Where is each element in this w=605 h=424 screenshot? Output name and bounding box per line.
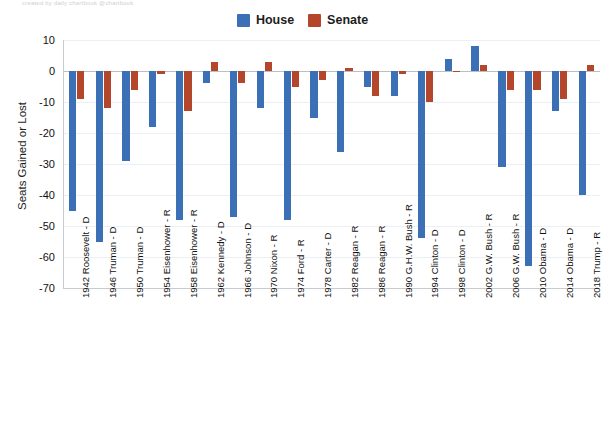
plot-area: Seats Gained or Lost 100-10-20-30-40-50-… (0, 0, 605, 424)
bar-house[interactable] (69, 71, 76, 211)
bar-senate[interactable] (157, 71, 164, 74)
x-tick-label: 2010 Obama - D (537, 228, 548, 298)
x-tick-label: 1966 Johnson - D (242, 223, 253, 298)
y-tick-label: -20 (19, 127, 55, 139)
bar-senate[interactable] (319, 71, 326, 80)
y-tick-label: -70 (19, 282, 55, 294)
bar-house[interactable] (284, 71, 291, 220)
grid-line (63, 164, 600, 165)
x-tick-label: 2006 G.W. Bush - R (510, 214, 521, 298)
bar-house[interactable] (471, 46, 478, 71)
bar-house[interactable] (498, 71, 505, 167)
bar-senate[interactable] (131, 71, 138, 90)
bar-house[interactable] (203, 71, 210, 83)
bar-senate[interactable] (560, 71, 567, 99)
bar-house[interactable] (176, 71, 183, 220)
bar-senate[interactable] (587, 65, 594, 71)
x-tick-label: 1974 Ford - R (295, 239, 306, 298)
x-tick-label: 1990 G.H.W. Bush - R (403, 204, 414, 298)
bar-house[interactable] (96, 71, 103, 242)
grid-line (63, 102, 600, 103)
y-tick-label: -30 (19, 158, 55, 170)
y-tick-label: 0 (19, 65, 55, 77)
y-axis-line (63, 40, 64, 288)
bar-house[interactable] (230, 71, 237, 217)
x-tick-label: 1958 Eisenhower - R (188, 209, 199, 298)
x-tick-label: 1950 Truman - D (134, 227, 145, 298)
y-tick-label: 10 (19, 34, 55, 46)
bar-house[interactable] (525, 71, 532, 266)
x-tick-label: 1978 Carter - D (322, 233, 333, 298)
x-tick-label: 1986 Reagan - R (376, 226, 387, 298)
bar-senate[interactable] (104, 71, 111, 108)
bar-house[interactable] (418, 71, 425, 238)
bar-senate[interactable] (426, 71, 433, 102)
x-tick-label: 2018 Trump - R (591, 232, 602, 298)
bar-senate[interactable] (292, 71, 299, 87)
y-tick-label: -60 (19, 251, 55, 263)
bar-house[interactable] (391, 71, 398, 96)
bar-senate[interactable] (238, 71, 245, 83)
bar-house[interactable] (310, 71, 317, 118)
y-tick-label: -40 (19, 189, 55, 201)
bar-senate[interactable] (533, 71, 540, 90)
bar-senate[interactable] (507, 71, 514, 90)
y-tick-label: -50 (19, 220, 55, 232)
bar-senate[interactable] (345, 68, 352, 71)
bar-senate[interactable] (265, 62, 272, 71)
x-tick-label: 1954 Eisenhower - R (161, 209, 172, 298)
bar-house[interactable] (149, 71, 156, 127)
bar-house[interactable] (122, 71, 129, 161)
zero-baseline (63, 71, 600, 72)
x-tick-label: 1970 Nixon - R (268, 235, 279, 298)
grid-line (63, 195, 600, 196)
x-tick-label: 1998 Clinton - D (456, 229, 467, 298)
bar-house[interactable] (364, 71, 371, 87)
midterm-seat-change-chart: created by daily chartbook @chartbook Ho… (0, 0, 605, 424)
x-tick-label: 1942 Roosevelt - D (80, 217, 91, 298)
bar-senate[interactable] (372, 71, 379, 96)
bar-senate[interactable] (399, 71, 406, 74)
x-tick-label: 1982 Reagan - R (349, 226, 360, 298)
bar-house[interactable] (337, 71, 344, 152)
grid-line (63, 40, 600, 41)
x-tick-label: 1946 Truman - D (107, 227, 118, 298)
bar-senate[interactable] (211, 62, 218, 71)
bar-senate[interactable] (184, 71, 191, 111)
bar-senate[interactable] (480, 65, 487, 71)
x-tick-label: 2002 G.W. Bush - R (483, 214, 494, 298)
bar-senate[interactable] (77, 71, 84, 99)
bar-house[interactable] (257, 71, 264, 108)
x-tick-label: 1994 Clinton - D (429, 229, 440, 298)
bar-house[interactable] (445, 59, 452, 71)
x-tick-label: 1962 Kennedy - D (215, 221, 226, 298)
y-tick-label: -10 (19, 96, 55, 108)
grid-line (63, 133, 600, 134)
x-tick-label: 2014 Obama - D (564, 228, 575, 298)
bar-house[interactable] (579, 71, 586, 195)
bar-house[interactable] (552, 71, 559, 111)
bar-senate[interactable] (453, 71, 460, 72)
